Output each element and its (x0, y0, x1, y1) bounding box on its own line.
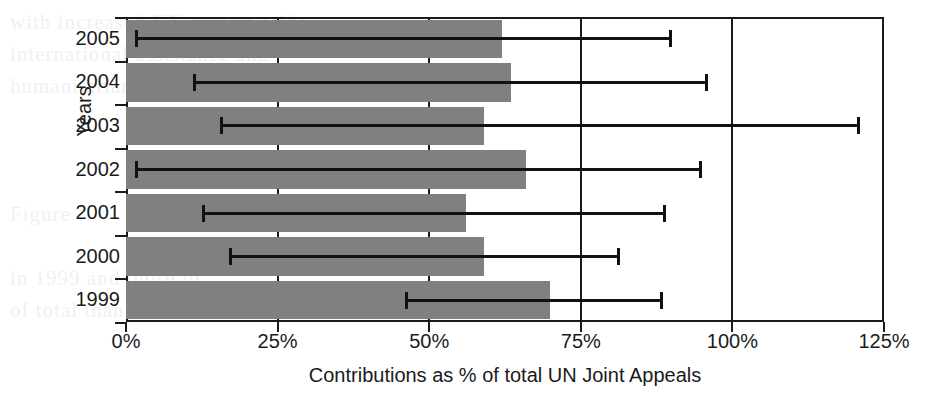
error-cap-high-1999 (660, 292, 663, 309)
error-bar-line-2002 (135, 168, 702, 171)
error-cap-low-2005 (135, 30, 138, 47)
error-cap-high-2001 (663, 205, 666, 222)
y-tick-mark (115, 104, 126, 106)
error-cap-low-2004 (193, 74, 196, 91)
x-tick-25: 25% (233, 330, 323, 353)
x-tick-mark (731, 322, 733, 332)
y-tick-2004: 2004 (48, 71, 120, 91)
error-cap-high-2000 (617, 248, 620, 265)
error-cap-low-2002 (135, 161, 138, 178)
error-bar-line-2003 (220, 124, 860, 127)
x-tick-mark (580, 322, 582, 332)
y-tick-1999: 1999 (48, 289, 120, 309)
error-bar-line-2000 (229, 255, 620, 258)
error-bar-line-2004 (193, 81, 708, 84)
error-cap-low-2001 (202, 205, 205, 222)
bar-row (126, 20, 884, 59)
error-cap-high-2004 (705, 74, 708, 91)
bar-row (126, 107, 884, 146)
error-cap-low-1999 (405, 292, 408, 309)
x-tick-75: 75% (536, 330, 626, 353)
y-tick-mark (115, 235, 126, 237)
bar-row (126, 150, 884, 189)
x-axis-title: Contributions as % of total UN Joint App… (126, 364, 884, 387)
error-cap-high-2003 (857, 117, 860, 134)
bar-row (126, 237, 884, 276)
bar-chart: Years 2005200420032002200120001999 0%25%… (0, 0, 949, 405)
x-tick-0: 0% (81, 330, 171, 353)
x-tick-125: 125% (839, 330, 929, 353)
bar-row (126, 63, 884, 102)
x-tick-100: 100% (687, 330, 777, 353)
error-bar-line-2005 (135, 37, 672, 40)
bar-row (126, 194, 884, 233)
y-tick-2001: 2001 (48, 202, 120, 222)
error-cap-low-2003 (220, 117, 223, 134)
y-tick-mark (115, 191, 126, 193)
y-tick-mark (115, 61, 126, 63)
x-tick-50: 50% (384, 330, 474, 353)
y-tick-2000: 2000 (48, 246, 120, 266)
error-cap-high-2005 (669, 30, 672, 47)
x-tick-mark (277, 322, 279, 332)
y-tick-mark (115, 278, 126, 280)
y-tick-mark (115, 17, 126, 19)
error-cap-low-2000 (229, 248, 232, 265)
bar-row (126, 281, 884, 320)
y-tick-mark (115, 322, 126, 324)
y-tick-2003: 2003 (48, 115, 120, 135)
x-tick-mark (883, 322, 885, 332)
error-cap-high-2002 (699, 161, 702, 178)
error-bar-line-2001 (202, 212, 666, 215)
y-tick-2005: 2005 (48, 28, 120, 48)
error-bar-line-1999 (405, 299, 663, 302)
x-tick-mark (428, 322, 430, 332)
y-tick-2002: 2002 (48, 159, 120, 179)
plot-area (126, 17, 884, 322)
y-tick-mark (115, 148, 126, 150)
